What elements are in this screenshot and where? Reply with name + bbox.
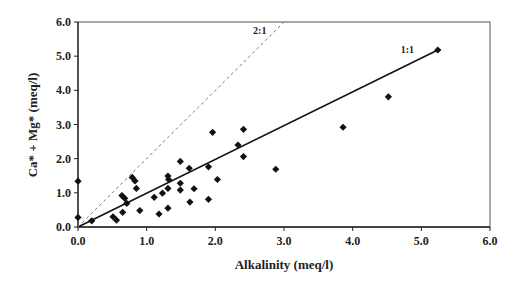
data-point <box>151 194 158 201</box>
data-point <box>177 158 184 165</box>
data-point <box>177 180 184 187</box>
reference-line-2-to-1 <box>78 22 284 227</box>
y-tick-label: 3.0 <box>56 118 71 132</box>
data-point <box>339 124 346 131</box>
x-tick-label: 4.0 <box>345 234 360 248</box>
data-point <box>119 209 126 216</box>
data-point <box>159 190 166 197</box>
y-axis-title: Ca* + Mg* (meq/l) <box>25 73 40 178</box>
data-point <box>74 214 81 221</box>
y-tick-label: 2.0 <box>56 152 71 166</box>
data-point <box>177 187 184 194</box>
data-point <box>164 205 171 212</box>
x-tick-label: 0.0 <box>71 234 86 248</box>
x-tick-label: 1.0 <box>139 234 154 248</box>
data-points <box>74 46 441 224</box>
data-point <box>385 93 392 100</box>
data-point <box>240 153 247 160</box>
reference-line-label: 2:1 <box>253 25 266 36</box>
data-point <box>190 185 197 192</box>
data-point <box>136 207 143 214</box>
data-point <box>186 198 193 205</box>
data-point <box>272 166 279 173</box>
x-tick-label: 6.0 <box>483 234 498 248</box>
data-point <box>209 129 216 136</box>
data-point <box>155 210 162 217</box>
data-point <box>205 196 212 203</box>
reference-lines: 1:12:1 <box>78 22 438 227</box>
data-point <box>164 185 171 192</box>
data-point <box>133 185 140 192</box>
y-tick-label: 4.0 <box>56 83 71 97</box>
data-point <box>214 176 221 183</box>
data-point <box>74 178 81 185</box>
x-tick-label: 5.0 <box>414 234 429 248</box>
y-tick-label: 6.0 <box>56 15 71 29</box>
data-point <box>240 126 247 133</box>
y-axis-ticks: 0.01.02.03.04.05.06.0 <box>56 15 78 234</box>
x-tick-label: 2.0 <box>208 234 223 248</box>
x-axis-title: Alkalinity (meq/l) <box>235 257 334 272</box>
x-axis-ticks: 0.01.02.03.04.05.06.0 <box>71 227 498 248</box>
x-tick-label: 3.0 <box>277 234 292 248</box>
y-tick-label: 5.0 <box>56 49 71 63</box>
scatter-chart: 0.01.02.03.04.05.06.0 0.01.02.03.04.05.0… <box>0 0 520 284</box>
reference-line-1-to-1 <box>78 50 438 227</box>
y-tick-label: 0.0 <box>56 220 71 234</box>
reference-line-label: 1:1 <box>401 44 414 55</box>
data-point <box>434 46 441 53</box>
y-tick-label: 1.0 <box>56 186 71 200</box>
